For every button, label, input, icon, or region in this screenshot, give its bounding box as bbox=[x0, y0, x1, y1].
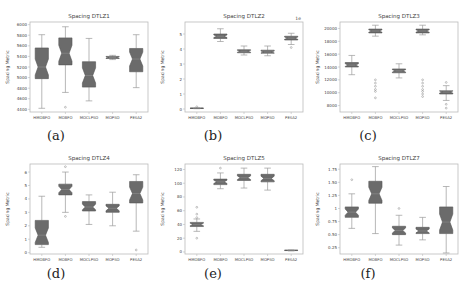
subfigure-caption: (b) bbox=[193, 128, 233, 143]
box-mopso bbox=[106, 192, 119, 226]
box-mopso bbox=[261, 46, 274, 56]
x-tick-label: PESA2 bbox=[440, 257, 453, 262]
x-tick-label: HMOBFO bbox=[343, 257, 360, 262]
y-axis-label: Spacing Metric bbox=[5, 192, 10, 226]
y-tick-label: 3 bbox=[179, 62, 182, 67]
box-mobfo bbox=[214, 167, 227, 189]
box-mobfo bbox=[369, 167, 382, 234]
x-tick-label: HMOBFO bbox=[188, 257, 205, 262]
y-tick-label: 1 bbox=[24, 237, 27, 242]
y-tick-label: 5800 bbox=[17, 33, 28, 38]
y-tick-label: 0 bbox=[179, 249, 182, 254]
chart-title: Spacing DTLZ5 bbox=[223, 155, 265, 162]
x-tick-label: MOCLPSO bbox=[80, 115, 99, 120]
y-tick-label: 2 bbox=[24, 223, 27, 228]
box-hmobfo bbox=[345, 179, 358, 229]
x-tick-label: MOBFO bbox=[58, 115, 72, 120]
y-tick-label: 6000 bbox=[17, 22, 28, 27]
box-mobfo bbox=[369, 25, 382, 99]
y-tick-label: 5600 bbox=[17, 43, 28, 48]
y-tick-label: 5400 bbox=[17, 54, 28, 59]
y-tick-label: 4800 bbox=[17, 86, 28, 91]
boxplot-panel-b: Spacing DTLZ21eSpacing Metric012345HMOBF… bbox=[155, 0, 309, 128]
subfigure-caption: (e) bbox=[193, 266, 233, 281]
subfigure-caption: (a) bbox=[36, 128, 76, 143]
y-axis-label: Spacing Metric bbox=[315, 50, 320, 84]
x-tick-label: MOBFO bbox=[58, 257, 72, 262]
x-tick-label: MOBFO bbox=[368, 257, 382, 262]
x-tick-label: PESA2 bbox=[440, 115, 453, 120]
x-tick-label: MOPSO bbox=[261, 257, 275, 262]
box-mopso bbox=[106, 55, 119, 59]
y-tick-label: 1 bbox=[179, 92, 182, 97]
subfigure-caption: (c) bbox=[348, 128, 388, 143]
y-tick-label: 5 bbox=[24, 183, 27, 188]
box-moclpso bbox=[392, 208, 405, 246]
y-tick-label: 8000 bbox=[327, 103, 338, 108]
y-tick-label: 4 bbox=[179, 47, 182, 52]
y-tick-label: 4600 bbox=[17, 96, 28, 101]
x-tick-label: MOPSO bbox=[106, 257, 120, 262]
y-tick-label: 60 bbox=[177, 208, 183, 213]
box-moclpso bbox=[237, 46, 250, 55]
boxplot-panel-d: Spacing DTLZ4Spacing Metric0123456HMOBFO… bbox=[0, 142, 154, 270]
x-tick-label: PESA2 bbox=[285, 115, 298, 120]
boxplot-panel-e: Spacing DTLZ5Spacing Metric0204060801001… bbox=[155, 142, 309, 270]
x-tick-label: MOBFO bbox=[213, 115, 227, 120]
axis-offset-text: 1e bbox=[295, 16, 301, 21]
y-tick-label: 6 bbox=[24, 170, 27, 175]
box-mopso bbox=[416, 25, 429, 97]
box-mobfo bbox=[59, 27, 72, 108]
y-axis-label: Spacing Metric bbox=[5, 50, 10, 84]
y-axis-label: Spacing Metric bbox=[315, 192, 320, 226]
y-tick-label: 10000 bbox=[324, 90, 337, 95]
boxplot-panel-f: Spacing DTLZ7Spacing Metric0.250.500.751… bbox=[310, 142, 464, 270]
y-tick-label: 0.50 bbox=[328, 232, 337, 237]
box-pesa2 bbox=[285, 250, 298, 251]
chart-title: Spacing DTLZ7 bbox=[378, 155, 420, 162]
x-tick-label: PESA2 bbox=[130, 257, 143, 262]
y-tick-label: 2 bbox=[179, 77, 182, 82]
box-moclpso bbox=[392, 64, 405, 78]
y-tick-label: 100 bbox=[174, 181, 182, 186]
box-mobfo bbox=[214, 29, 227, 42]
x-tick-label: MOBFO bbox=[368, 115, 382, 120]
box-pesa2 bbox=[130, 175, 143, 251]
y-tick-label: 18000 bbox=[324, 39, 337, 44]
box-pesa2 bbox=[130, 35, 143, 88]
box-moclpso bbox=[82, 195, 95, 225]
y-tick-label: 4 bbox=[24, 196, 27, 201]
box-hmobfo bbox=[190, 106, 203, 109]
x-tick-label: MOCLPSO bbox=[390, 115, 409, 120]
x-tick-label: MOCLPSO bbox=[80, 257, 99, 262]
x-tick-label: HMOBFO bbox=[33, 257, 50, 262]
x-tick-label: MOCLPSO bbox=[235, 257, 254, 262]
box-mobfo bbox=[59, 166, 72, 218]
y-tick-label: 1.25 bbox=[328, 193, 337, 198]
box-hmobfo bbox=[190, 206, 203, 239]
x-tick-label: HMOBFO bbox=[343, 115, 360, 120]
x-tick-label: MOBFO bbox=[213, 257, 227, 262]
box-hmobfo bbox=[35, 35, 48, 109]
chart-title: Spacing DTLZ4 bbox=[68, 155, 110, 162]
y-tick-label: 1 bbox=[334, 206, 337, 211]
y-tick-label: 12000 bbox=[324, 77, 337, 82]
chart-title: Spacing DTLZ2 bbox=[223, 13, 265, 20]
y-tick-label: 40 bbox=[177, 222, 183, 227]
box-hmobfo bbox=[345, 55, 358, 74]
x-tick-label: MOPSO bbox=[261, 115, 275, 120]
box-hmobfo bbox=[35, 196, 48, 247]
x-tick-label: PESA2 bbox=[130, 115, 143, 120]
y-tick-label: 5 bbox=[179, 32, 182, 37]
y-tick-label: 0.25 bbox=[328, 245, 337, 250]
box-pesa2 bbox=[285, 33, 298, 48]
y-tick-label: 20 bbox=[177, 236, 183, 241]
y-axis-label: Spacing Metric bbox=[160, 50, 165, 84]
boxplot-panel-a: Spacing DTLZ1Spacing Metric4400460048005… bbox=[0, 0, 154, 128]
chart-title: Spacing DTLZ3 bbox=[378, 13, 420, 20]
y-tick-label: 4400 bbox=[17, 107, 28, 112]
x-tick-label: MOPSO bbox=[106, 115, 120, 120]
y-tick-label: 0.75 bbox=[328, 219, 337, 224]
boxplot-panel-c: Spacing DTLZ3Spacing Metric8000100001200… bbox=[310, 0, 464, 128]
box-pesa2 bbox=[440, 82, 453, 110]
